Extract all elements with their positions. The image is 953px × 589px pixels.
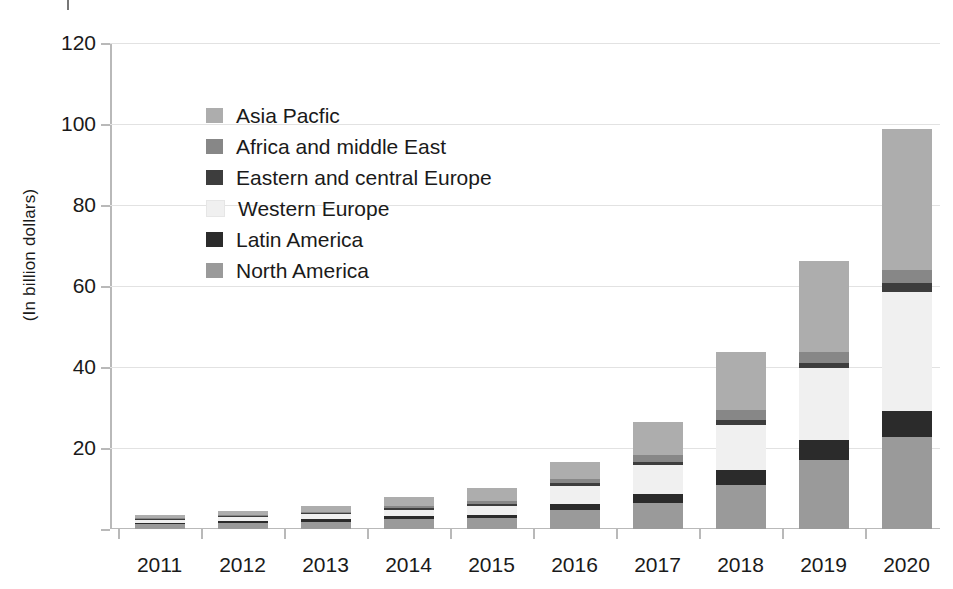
bar-segment[interactable] <box>633 465 683 494</box>
bar-segment[interactable] <box>633 494 683 503</box>
bar-segment[interactable] <box>135 518 185 519</box>
legend-item[interactable]: Western Europe <box>206 193 492 224</box>
x-tick-mark <box>865 529 867 539</box>
bar-segment[interactable] <box>301 519 351 521</box>
bar-segment[interactable] <box>467 501 517 504</box>
bar-segment[interactable] <box>467 504 517 506</box>
bar-segment[interactable] <box>218 517 268 521</box>
bar-segment[interactable] <box>716 470 766 485</box>
x-tick-mark <box>118 529 120 539</box>
bar-segment[interactable] <box>467 488 517 501</box>
y-tick-label: 120 <box>61 31 96 55</box>
legend-item[interactable]: Asia Pacfic <box>206 100 492 131</box>
y-tick-label: 60 <box>73 274 96 298</box>
bar-segment[interactable] <box>716 410 766 420</box>
bar-segment[interactable] <box>301 513 351 514</box>
y-tick-label: 80 <box>73 193 96 217</box>
bar-segment[interactable] <box>882 292 932 411</box>
bar-segment[interactable] <box>799 352 849 363</box>
bar-segment[interactable] <box>301 514 351 519</box>
bar-segment[interactable] <box>550 504 600 510</box>
bar-segment[interactable] <box>799 363 849 368</box>
y-tick-label: 40 <box>73 355 96 379</box>
legend-label: Africa and middle East <box>236 135 446 159</box>
x-tick-label: 2012 <box>219 553 266 577</box>
bar-segment[interactable] <box>799 368 849 440</box>
bar-segment[interactable] <box>633 503 683 529</box>
x-tick-label: 2013 <box>302 553 349 577</box>
bar-segment[interactable] <box>633 455 683 462</box>
x-tick-mark <box>782 529 784 539</box>
bar-segment[interactable] <box>218 511 268 515</box>
legend-label: Western Europe <box>238 197 389 221</box>
legend-label: Latin America <box>236 228 363 252</box>
bar-segment[interactable] <box>882 283 932 292</box>
bar-segment[interactable] <box>218 521 268 523</box>
bar-segment[interactable] <box>799 440 849 460</box>
bar-segment[interactable] <box>301 522 351 529</box>
bar-segment[interactable] <box>301 512 351 514</box>
chart-page: (In billion dollars) 20406080100120 2011… <box>0 0 953 589</box>
bar-segment[interactable] <box>135 520 185 523</box>
bar-segment[interactable] <box>384 497 434 506</box>
bar-segment[interactable] <box>882 270 932 283</box>
bar-segment[interactable] <box>384 519 434 529</box>
legend-item[interactable]: North America <box>206 255 492 286</box>
legend-item[interactable]: Africa and middle East <box>206 131 492 162</box>
bar-segment[interactable] <box>799 261 849 352</box>
stacked-bar[interactable] <box>135 515 185 529</box>
bar-segment[interactable] <box>716 425 766 470</box>
stacked-bar[interactable] <box>550 462 600 529</box>
legend-swatch-icon <box>206 232 223 247</box>
bar-segment[interactable] <box>550 510 600 529</box>
bar-segment[interactable] <box>550 479 600 483</box>
stacked-bar[interactable] <box>882 129 932 529</box>
bar-segment[interactable] <box>218 515 268 516</box>
y-tick-mark <box>101 448 110 450</box>
bar-segment[interactable] <box>633 422 683 455</box>
bar-segment[interactable] <box>301 506 351 512</box>
stacked-bar[interactable] <box>384 497 434 529</box>
stacked-bar[interactable] <box>633 422 683 529</box>
bar-segment[interactable] <box>135 524 185 529</box>
bar-segment[interactable] <box>716 420 766 425</box>
x-tick-label: 2011 <box>137 553 182 577</box>
stacked-bar[interactable] <box>467 488 517 529</box>
bar-segment[interactable] <box>384 510 434 516</box>
bar-segment[interactable] <box>882 411 932 437</box>
bar-segment[interactable] <box>467 506 517 515</box>
bar-segment[interactable] <box>882 437 932 529</box>
x-tick-label: 2019 <box>800 553 847 577</box>
bar-segment[interactable] <box>550 462 600 479</box>
bar-segment[interactable] <box>716 485 766 529</box>
bar-segment[interactable] <box>716 352 766 410</box>
bar-segment[interactable] <box>799 460 849 529</box>
bar-segment[interactable] <box>550 486 600 504</box>
bar-segment[interactable] <box>384 508 434 510</box>
y-tick-label: 20 <box>73 436 96 460</box>
bar-segment[interactable] <box>135 515 185 518</box>
legend-label: North America <box>236 259 369 283</box>
bar-segment[interactable] <box>218 523 268 529</box>
bar-segment[interactable] <box>633 462 683 465</box>
bar-segment[interactable] <box>467 515 517 519</box>
legend-item[interactable]: Latin America <box>206 224 492 255</box>
bar-segment[interactable] <box>135 523 185 525</box>
bar-segment[interactable] <box>467 518 517 529</box>
bar-segment[interactable] <box>135 519 185 520</box>
x-tick-label: 2015 <box>468 553 515 577</box>
bar-segment[interactable] <box>550 483 600 486</box>
bar-segment[interactable] <box>882 129 932 270</box>
bar-segment[interactable] <box>384 506 434 508</box>
bar-segment[interactable] <box>218 516 268 517</box>
legend-item[interactable]: Eastern and central Europe <box>206 162 492 193</box>
bar-segment[interactable] <box>384 516 434 519</box>
stacked-bar[interactable] <box>716 352 766 529</box>
x-tick-mark <box>201 529 203 539</box>
stacked-bar[interactable] <box>301 506 351 529</box>
x-tick-label: 2014 <box>385 553 432 577</box>
x-tick-mark <box>616 529 618 539</box>
stacked-bar[interactable] <box>799 261 849 529</box>
x-tick-mark <box>699 529 701 539</box>
stacked-bar[interactable] <box>218 511 268 529</box>
